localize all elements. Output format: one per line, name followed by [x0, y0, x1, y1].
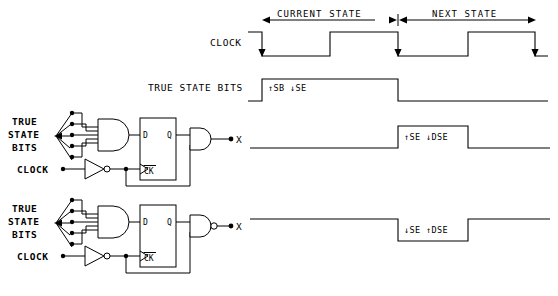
region-markers: CURRENT STATE NEXT STATE: [262, 9, 536, 26]
next-state-label: NEXT STATE: [432, 9, 497, 19]
circuit-and-input-label-line-2: STATE: [8, 129, 40, 140]
circuit-nand-flipflop-q-pin: Q: [167, 218, 172, 227]
circuit-nand-input-and-gate: [98, 206, 129, 238]
current-state-left-arrow-icon: [262, 17, 270, 24]
circuit-nand-output-bubble-icon: [211, 223, 217, 229]
circuit-and-bit-inputs: [70, 111, 98, 159]
next-state-right-arrow-icon: [528, 17, 536, 24]
circuit-nand-inverter-bubble-icon: [104, 253, 110, 259]
next-state-left-arrow-icon: [399, 17, 407, 24]
circuit-and-inverter-bubble-icon: [104, 166, 110, 172]
current-state-label: CURRENT STATE: [277, 9, 362, 19]
diagram-canvas: CURRENT STATE NEXT STATE CLOCK TRUE STAT…: [0, 0, 558, 296]
x-high-pulse-annotation: ↑SE ↓DSE: [404, 132, 448, 142]
circuit-and-flipflop-q-pin: Q: [167, 131, 172, 140]
circuit-and-input-fanout: [54, 113, 72, 160]
true-state-bits-annotation: ↑SB ↓SE: [268, 83, 307, 93]
circuit-nand-output-label: X: [236, 221, 242, 232]
true-state-bits-waveform-group: TRUE STATE BITS ↑SB ↓SE: [148, 79, 548, 101]
true-state-bits-waveform-label: TRUE STATE BITS: [148, 82, 243, 93]
circuit-nand-flipflop-ck-pin: CK: [144, 254, 154, 263]
x-low-pulse-waveform-group: ↓SE ↑DSE: [250, 219, 550, 241]
circuit-and-flipflop-ck-pin: CK: [144, 167, 154, 176]
current-state-right-arrow-icon: [389, 17, 397, 24]
circuit-and-input-label-line-3: BITS: [12, 142, 37, 153]
timing-and-logic-diagram: CURRENT STATE NEXT STATE CLOCK TRUE STAT…: [0, 0, 558, 296]
clock-waveform-label: CLOCK: [210, 37, 242, 48]
circuit-and-output-label: X: [236, 134, 242, 145]
circuit-nand-input-fanout: [54, 200, 72, 247]
circuit-and-flipflop-d-pin: D: [143, 131, 148, 140]
circuit-nand-input-label-line-3: BITS: [12, 229, 37, 240]
circuit-and-input-and-gate: [98, 119, 129, 151]
x-low-pulse-waveform-trace: [250, 219, 550, 241]
circuit-nand-output-gate: [190, 215, 211, 237]
circuit-and: TRUE STATE BITS: [8, 111, 242, 186]
circuit-nand-clock-label: CLOCK: [17, 251, 49, 262]
x-high-pulse-waveform-group: ↑SE ↓DSE: [250, 126, 550, 148]
circuit-nand-inverter-triangle: [85, 246, 104, 266]
circuit-nand-bit-inputs: [70, 198, 98, 246]
circuit-nand: TRUE STATE BITS: [8, 198, 242, 273]
x-high-pulse-waveform-trace: [250, 126, 550, 148]
circuit-nand-input-label-line-1: TRUE: [12, 203, 37, 214]
circuit-and-output-dot: [229, 137, 234, 142]
circuit-and-inverter-triangle: [85, 159, 104, 179]
circuit-nand-flipflop-d-pin: D: [143, 218, 148, 227]
x-low-pulse-annotation: ↓SE ↑DSE: [404, 225, 448, 235]
circuit-nand-input-label-line-2: STATE: [8, 216, 40, 227]
circuit-and-input-label-line-1: TRUE: [12, 116, 37, 127]
circuit-and-clock-label: CLOCK: [17, 164, 49, 175]
circuit-nand-output-dot: [229, 224, 234, 229]
circuit-and-output-gate: [190, 128, 211, 150]
clock-waveform-group: CLOCK: [210, 32, 548, 57]
